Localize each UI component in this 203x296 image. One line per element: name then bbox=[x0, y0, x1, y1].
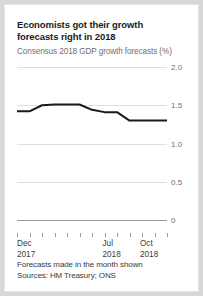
chart-card: Economists got their growth forecasts ri… bbox=[4, 4, 199, 292]
x-tick-label-month: Dec bbox=[17, 239, 35, 250]
x-axis-tick bbox=[105, 233, 106, 237]
x-axis-tick bbox=[117, 233, 118, 237]
x-axis-tick bbox=[67, 233, 68, 237]
page-title: Economists got their growth forecasts ri… bbox=[17, 19, 186, 43]
x-tick-label-month: Oct bbox=[140, 239, 158, 250]
x-axis-tick bbox=[42, 233, 43, 237]
x-axis-tick bbox=[80, 233, 81, 237]
x-axis-tick bbox=[92, 233, 93, 237]
x-tick-label-year: 2018 bbox=[103, 250, 121, 261]
x-tick-label-dec-2017: Dec2017 bbox=[17, 239, 35, 260]
x-axis-tick bbox=[142, 233, 143, 237]
chart-header: Economists got their growth forecasts ri… bbox=[5, 5, 198, 57]
chart-footnote: Forecasts made in the month shown Source… bbox=[17, 260, 192, 281]
x-tick-label-month: Jul bbox=[103, 239, 121, 250]
x-axis-tick bbox=[130, 233, 131, 237]
x-axis-tick bbox=[167, 233, 168, 237]
chart-subtitle: Consensus 2018 GDP growth forecasts (%) bbox=[17, 47, 186, 57]
footnote-line-1: Forecasts made in the month shown bbox=[17, 260, 192, 271]
title-line-1: Economists got their growth bbox=[17, 19, 186, 31]
x-axis-tick bbox=[17, 233, 18, 237]
line-series-0 bbox=[17, 104, 167, 120]
x-axis-tick bbox=[55, 233, 56, 237]
chart-line-series bbox=[17, 67, 188, 233]
chart-plot-area: 2.01.51.00.50 bbox=[17, 67, 188, 233]
x-tick-label-year: 2017 bbox=[17, 250, 35, 261]
footnote-line-2: Sources: HM Treasury; ONS bbox=[17, 271, 192, 282]
x-axis-tick bbox=[30, 233, 31, 237]
x-tick-label-year: 2018 bbox=[140, 250, 158, 261]
x-tick-label-oct-2018: Oct2018 bbox=[140, 239, 158, 260]
title-line-2: forecasts right in 2018 bbox=[17, 31, 186, 43]
x-tick-label-jul-2018: Jul2018 bbox=[103, 239, 121, 260]
x-axis-tick bbox=[155, 233, 156, 237]
